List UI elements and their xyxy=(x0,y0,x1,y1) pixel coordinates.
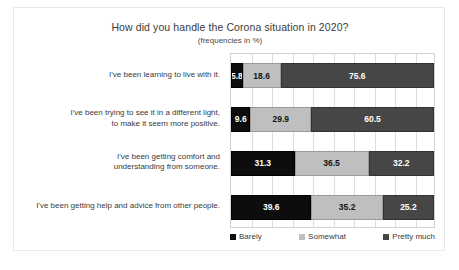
bar-segment-barely[interactable]: 31.3 xyxy=(231,151,295,176)
legend-item-somewhat[interactable]: Somewhat xyxy=(299,232,346,241)
legend-label: Barely xyxy=(239,232,262,241)
bar-value-label: 25.2 xyxy=(400,203,417,212)
bar-segment-pretty-much[interactable]: 32.2 xyxy=(369,151,434,176)
bar-segment-barely[interactable]: 9.6 xyxy=(231,107,250,132)
legend-swatch-icon xyxy=(299,234,305,240)
bar-value-label: 9.6 xyxy=(235,115,247,124)
bar-segment-somewhat[interactable]: 36.5 xyxy=(295,151,369,176)
category-label-line: I've been trying to see it in a differen… xyxy=(14,108,220,119)
category-label: I've been getting help and advice from o… xyxy=(14,201,220,212)
bar-segment-pretty-much[interactable]: 25.2 xyxy=(383,195,434,220)
bar-value-label: 31.3 xyxy=(254,159,271,168)
bar-segment-pretty-much[interactable]: 60.5 xyxy=(311,107,434,132)
bar-row: 39.635.225.2 xyxy=(231,195,434,220)
legend-label: Somewhat xyxy=(308,232,346,241)
plot-area: 5.818.675.69.629.960.531.336.532.239.635… xyxy=(230,53,435,228)
bar-value-label: 39.6 xyxy=(263,203,280,212)
bar-segment-somewhat[interactable]: 35.2 xyxy=(311,195,382,220)
chart-subtitle: (frequencies in %) xyxy=(14,35,446,46)
category-label: I've been learning to live with it. xyxy=(14,70,220,81)
bar-value-label: 35.2 xyxy=(339,203,356,212)
category-label-line: I've been getting help and advice from o… xyxy=(14,201,220,212)
category-label-line: understanding from someone. xyxy=(14,162,220,173)
bar-segment-somewhat[interactable]: 29.9 xyxy=(250,107,311,132)
legend-swatch-icon xyxy=(230,234,236,240)
legend-swatch-icon xyxy=(383,234,389,240)
bar-value-label: 5.8 xyxy=(231,72,243,81)
bar-value-label: 75.6 xyxy=(349,72,366,81)
bar-value-label: 18.6 xyxy=(253,72,270,81)
bar-value-label: 60.5 xyxy=(364,115,381,124)
category-label-line: to make it seem more positive. xyxy=(14,119,220,130)
legend-item-pretty-much[interactable]: Pretty much xyxy=(383,232,435,241)
chart-title-block: How did you handle the Corona situation … xyxy=(14,21,446,46)
bar-row: 31.336.532.2 xyxy=(231,151,434,176)
category-label: I've been trying to see it in a differen… xyxy=(14,108,220,129)
category-axis-labels: I've been learning to live with it.I've … xyxy=(14,53,226,228)
legend-item-barely[interactable]: Barely xyxy=(230,232,262,241)
legend-label: Pretty much xyxy=(392,232,435,241)
bar-segment-pretty-much[interactable]: 75.6 xyxy=(281,63,434,88)
chart-legend: BarelySomewhatPretty much xyxy=(230,232,435,241)
bar-segment-barely[interactable]: 39.6 xyxy=(231,195,311,220)
category-label-line: I've been getting comfort and xyxy=(14,152,220,163)
chart-title: How did you handle the Corona situation … xyxy=(14,21,446,34)
bar-value-label: 29.9 xyxy=(273,115,290,124)
bar-row: 9.629.960.5 xyxy=(231,107,434,132)
category-label-line: I've been learning to live with it. xyxy=(14,70,220,81)
bar-rows: 5.818.675.69.629.960.531.336.532.239.635… xyxy=(231,54,434,227)
chart-figure: How did you handle the Corona situation … xyxy=(0,0,459,270)
bar-segment-barely[interactable]: 5.8 xyxy=(231,63,243,88)
bar-segment-somewhat[interactable]: 18.6 xyxy=(243,63,281,88)
category-label: I've been getting comfort andunderstandi… xyxy=(14,152,220,173)
chart-frame: How did you handle the Corona situation … xyxy=(13,7,445,251)
bar-value-label: 32.2 xyxy=(393,159,410,168)
bar-row: 5.818.675.6 xyxy=(231,63,434,88)
bar-value-label: 36.5 xyxy=(323,159,340,168)
